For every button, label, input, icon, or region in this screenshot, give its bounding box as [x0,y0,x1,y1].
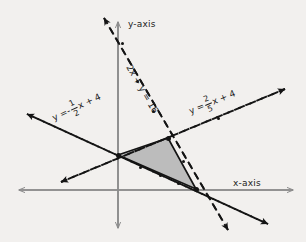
dash-dot-edge-left-a [139,166,142,169]
dash-dot-edge-left-c [177,182,180,185]
eq2-lhs: y = [187,101,205,116]
dash-dot-rising-right [217,117,220,120]
x-axis-label: x-axis [233,178,261,188]
boundary-lines [27,18,285,230]
eq2-rhs: x + 4 [211,88,237,106]
vertex-left [116,153,121,158]
vertex-top [166,136,171,141]
feasible-region-shading [118,138,196,189]
vertex-bottom [194,187,199,192]
y-axis-label: y-axis [128,19,156,29]
dash-dot-edge-right [182,160,185,163]
dash-dot-steep-upper [121,42,124,45]
coordinate-graph [0,0,306,242]
dash-dot-edge-left-b [159,174,162,177]
